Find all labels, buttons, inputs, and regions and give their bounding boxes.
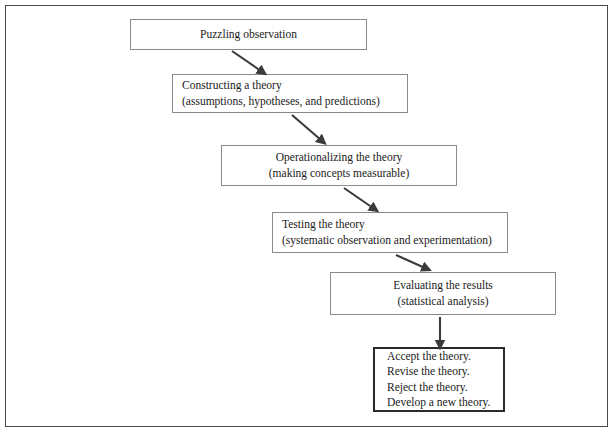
- flow-node-line: Accept the theory.: [387, 349, 471, 364]
- flow-node-outcomes: Accept the theory. Revise the theory. Re…: [373, 347, 505, 412]
- flowchart-figure: Puzzling observation Constructing a theo…: [0, 0, 614, 433]
- flow-node-line: Reject the theory.: [387, 380, 468, 395]
- flow-node-line: (statistical analysis): [397, 294, 488, 310]
- flow-node-operationalizing-the-theory: Operationalizing the theory (making conc…: [221, 145, 457, 186]
- flow-node-line: (making concepts measurable): [269, 166, 410, 182]
- flow-node-line: Testing the theory: [282, 217, 365, 233]
- flow-node-line: Constructing a theory: [182, 78, 282, 94]
- flow-node-line: (assumptions, hypotheses, and prediction…: [182, 94, 380, 110]
- flow-node-puzzling-observation: Puzzling observation: [130, 19, 367, 50]
- flow-node-testing-the-theory: Testing the theory (systematic observati…: [272, 212, 508, 253]
- flow-node-evaluating-the-results: Evaluating the results (statistical anal…: [330, 272, 556, 315]
- flow-node-line: Puzzling observation: [200, 27, 297, 43]
- flow-node-line: Evaluating the results: [393, 278, 493, 294]
- flow-node-line: Operationalizing the theory: [276, 150, 402, 166]
- flow-node-constructing-a-theory: Constructing a theory (assumptions, hypo…: [172, 74, 408, 113]
- flow-node-line: (systematic observation and experimentat…: [282, 233, 492, 249]
- flow-node-line: Develop a new theory.: [387, 395, 490, 410]
- flow-node-line: Revise the theory.: [387, 364, 470, 379]
